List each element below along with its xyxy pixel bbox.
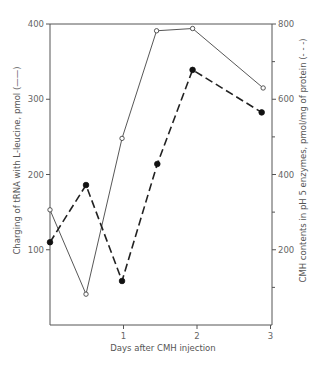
- series-layer: [47, 26, 265, 296]
- data-point-filled: [119, 278, 125, 284]
- data-point-filled: [190, 67, 196, 73]
- axes: [50, 24, 272, 325]
- data-point-filled: [47, 239, 53, 245]
- x-tick-label: 2: [194, 331, 199, 341]
- x-axis-title: Days after CMH injection: [110, 343, 215, 353]
- series-line: [50, 70, 262, 281]
- right-y-tick-label: 800: [278, 19, 294, 29]
- right-y-tick-label: 600: [278, 94, 294, 104]
- ticks: 123100200300400200400600800: [28, 19, 294, 341]
- data-point-open: [154, 29, 158, 33]
- data-point-open: [120, 136, 124, 140]
- data-point-open: [190, 26, 194, 30]
- data-point-open: [261, 86, 265, 90]
- right-y-tick-label: 200: [278, 245, 294, 255]
- data-point-filled: [83, 182, 89, 188]
- chart: 123100200300400200400600800 Days after C…: [0, 0, 324, 370]
- x-tick-label: 3: [268, 331, 273, 341]
- data-point-filled: [155, 161, 161, 167]
- left-y-tick-label: 400: [28, 19, 44, 29]
- data-point-filled: [259, 110, 265, 116]
- right-y-tick-label: 400: [278, 170, 294, 180]
- x-tick-label: 1: [121, 331, 126, 341]
- left-y-tick-label: 100: [28, 245, 44, 255]
- series-cmh-contents: [47, 67, 264, 284]
- left-y-axis-title: Charging of tRNA with L-leucine, pmol (—…: [12, 66, 22, 254]
- left-y-tick-label: 200: [28, 170, 44, 180]
- right-y-axis-title: CMH contents in pH 5 enzymes, pmol/mg of…: [298, 38, 308, 282]
- left-y-tick-label: 300: [28, 94, 44, 104]
- data-point-open: [48, 208, 52, 212]
- data-point-open: [84, 292, 88, 296]
